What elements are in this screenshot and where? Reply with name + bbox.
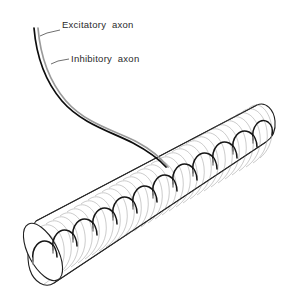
- neuromuscular-diagram: Excitatory axon Inhibitory axon: [0, 0, 288, 300]
- inhibitory-axon-label: Inhibitory axon: [71, 53, 139, 64]
- figure-root: Excitatory axon Inhibitory axon: [0, 0, 288, 300]
- excitatory-axon-label: Excitatory axon: [62, 19, 134, 30]
